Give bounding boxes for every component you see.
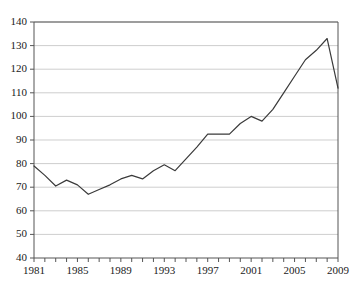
y-tick-label-100: 100	[11, 109, 28, 121]
y-tick-label-120: 120	[11, 62, 28, 74]
y-tick-label-80: 80	[16, 157, 28, 169]
y-tick-label-140: 140	[11, 15, 28, 27]
x-tick-label-2001: 2001	[240, 264, 262, 276]
y-tick-label-130: 130	[11, 39, 28, 51]
x-tick-label-2005: 2005	[284, 264, 307, 276]
y-tick-label-70: 70	[16, 180, 28, 192]
x-tick-label-1997: 1997	[197, 264, 220, 276]
x-tick-label-1993: 1993	[153, 264, 176, 276]
y-tick-label-90: 90	[16, 133, 28, 145]
x-tick-label-1985: 1985	[66, 264, 89, 276]
y-tick-label-50: 50	[16, 227, 28, 239]
y-tick-label-60: 60	[16, 204, 28, 216]
x-tick-label-2009: 2009	[327, 264, 350, 276]
line-chart: 4050607080901001101201301401981198519891…	[0, 0, 362, 292]
y-tick-label-40: 40	[16, 251, 28, 263]
y-tick-label-110: 110	[11, 86, 28, 98]
x-tick-label-1989: 1989	[110, 264, 133, 276]
chart-plot-area: 4050607080901001101201301401981198519891…	[0, 0, 362, 292]
x-tick-label-1981: 1981	[23, 264, 45, 276]
